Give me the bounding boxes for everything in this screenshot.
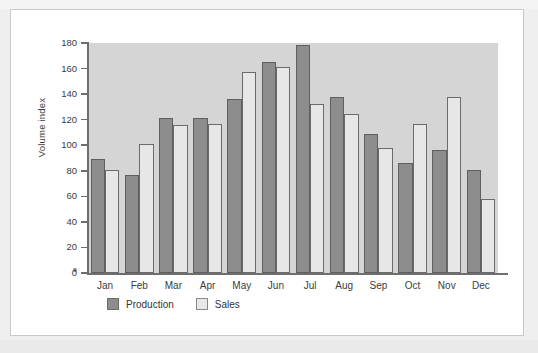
y-tick-180 — [81, 42, 88, 44]
bar-chart: Volume index 020406080100120140160180 Ja… — [11, 10, 525, 337]
bar-sales-jun — [276, 67, 290, 273]
bar-production-jan — [91, 159, 105, 273]
y-axis-line — [87, 42, 89, 274]
y-axis-title: Volume index — [36, 58, 47, 198]
y-tick-60 — [81, 196, 88, 198]
bar-production-jul — [296, 45, 310, 273]
bar-production-feb — [125, 175, 139, 273]
page-top-margin — [0, 0, 538, 9]
bar-production-nov — [432, 150, 446, 273]
y-tick-label-160: 160 — [35, 62, 77, 73]
y-tick-20 — [81, 247, 88, 249]
legend-label-sales: Sales — [215, 299, 240, 310]
y-tick-label-100: 100 — [35, 139, 77, 150]
bar-production-may — [227, 99, 241, 273]
bar-sales-apr — [208, 124, 222, 273]
bar-sales-nov — [447, 97, 461, 273]
y-tick-0 — [81, 272, 88, 274]
legend-item-sales: Sales — [196, 298, 240, 310]
bar-sales-dec — [481, 199, 495, 273]
bar-sales-aug — [344, 114, 358, 273]
y-tick-120 — [81, 119, 88, 121]
bar-production-dec — [467, 170, 481, 274]
bar-production-sep — [364, 134, 378, 273]
bar-sales-sep — [378, 148, 392, 273]
bar-production-oct — [398, 163, 412, 273]
bar-production-jun — [262, 62, 276, 273]
y-tick-100 — [81, 144, 88, 146]
y-tick-label-60: 60 — [35, 190, 77, 201]
x-axis-line — [87, 273, 508, 275]
bar-production-apr — [193, 118, 207, 273]
page-bottom-margin — [0, 340, 538, 353]
bar-production-mar — [159, 118, 173, 273]
production-swatch-icon — [107, 298, 119, 310]
bar-sales-jul — [310, 104, 324, 273]
y-tick-80 — [81, 170, 88, 172]
y-tick-label-20: 20 — [35, 241, 77, 252]
legend-item-production: Production — [107, 298, 174, 310]
bar-sales-mar — [173, 125, 187, 273]
figure-card: Volume index 020406080100120140160180 Ja… — [10, 9, 524, 336]
sales-swatch-icon — [196, 298, 208, 310]
bar-sales-may — [242, 72, 256, 273]
bar-sales-feb — [139, 144, 153, 273]
page-canvas: Volume index 020406080100120140160180 Ja… — [0, 0, 538, 353]
chart-legend: Production Sales — [107, 298, 240, 310]
y-tick-label-120: 120 — [35, 113, 77, 124]
y-tick-140 — [81, 93, 88, 95]
y-tick-label-40: 40 — [35, 215, 77, 226]
y-tick-160 — [81, 68, 88, 70]
y-tick-label-140: 140 — [35, 88, 77, 99]
bar-sales-oct — [413, 124, 427, 274]
legend-label-production: Production — [126, 299, 174, 310]
y-tick-label-0: 0 — [35, 267, 77, 278]
y-tick-40 — [81, 221, 88, 223]
bar-sales-jan — [105, 170, 119, 274]
bar-production-aug — [330, 97, 344, 273]
x-tick-label-dec: Dec — [461, 280, 501, 291]
y-tick-label-180: 180 — [35, 37, 77, 48]
y-tick-label-80: 80 — [35, 164, 77, 175]
